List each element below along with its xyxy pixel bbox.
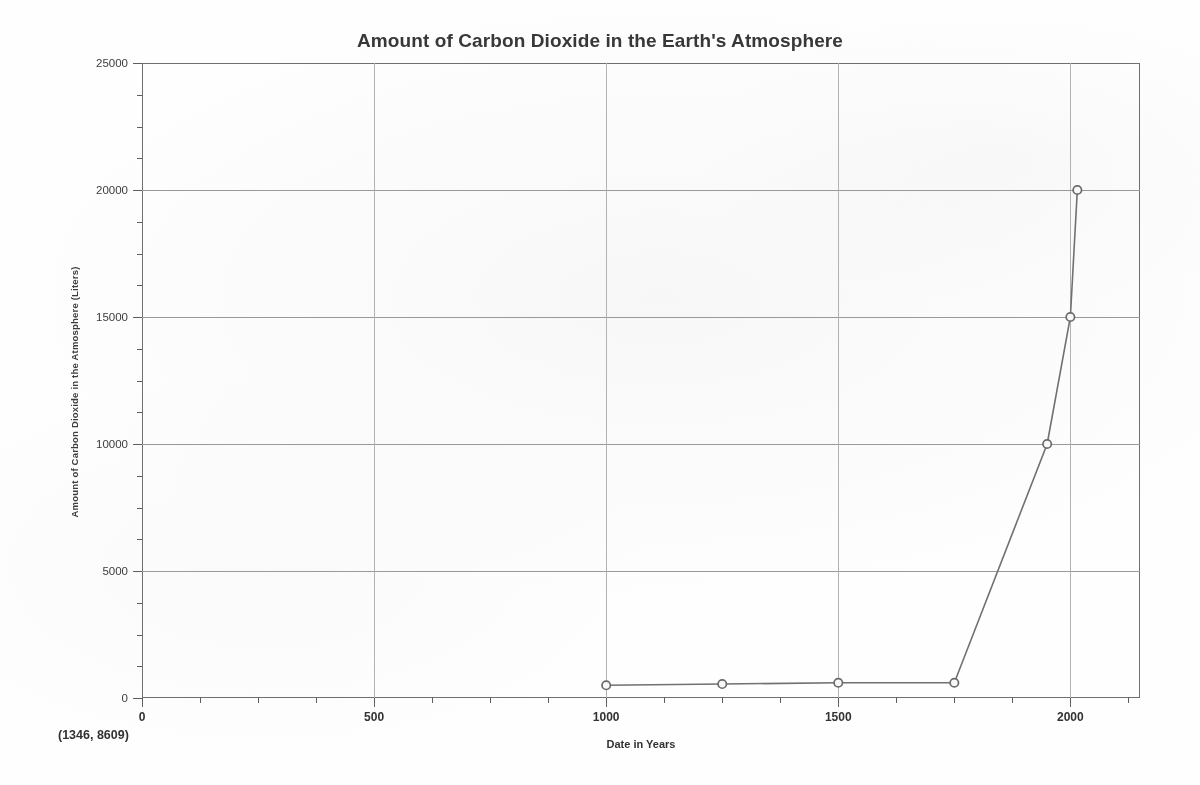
x-tick-minor (954, 698, 955, 703)
y-tick-label: 0 (0, 692, 128, 704)
x-tick-label: 500 (364, 710, 384, 724)
x-axis-title: Date in Years (607, 738, 676, 750)
x-tick-major (142, 698, 143, 707)
x-tick-minor (896, 698, 897, 703)
y-tick-major (133, 444, 142, 445)
x-tick-minor (490, 698, 491, 703)
x-tick-minor (1128, 698, 1129, 703)
y-tick-major (133, 63, 142, 64)
y-tick-major (133, 317, 142, 318)
y-tick-label: 15000 (0, 311, 128, 323)
y-tick-label: 10000 (0, 438, 128, 450)
y-tick-major (133, 571, 142, 572)
x-tick-minor (432, 698, 433, 703)
series-point-marker[interactable] (950, 679, 958, 687)
y-axis-title: Amount of Carbon Dioxide in the Atmosphe… (69, 266, 80, 517)
series-point-marker[interactable] (602, 681, 610, 689)
series-point-marker[interactable] (1043, 440, 1051, 448)
x-tick-minor (780, 698, 781, 703)
chart-figure: Amount of Carbon Dioxide in the Earth's … (0, 0, 1200, 785)
y-tick-label: 5000 (0, 565, 128, 577)
y-tick-major (133, 190, 142, 191)
series-point-marker[interactable] (834, 679, 842, 687)
series-point-marker[interactable] (718, 680, 726, 688)
x-tick-major (374, 698, 375, 707)
x-tick-label: 2000 (1057, 710, 1084, 724)
x-tick-minor (722, 698, 723, 703)
x-tick-minor (664, 698, 665, 703)
x-tick-label: 1500 (825, 710, 852, 724)
y-tick-label: 20000 (0, 184, 128, 196)
x-tick-minor (258, 698, 259, 703)
x-tick-minor (548, 698, 549, 703)
x-tick-major (838, 698, 839, 707)
data-series-layer (142, 63, 1140, 698)
series-line (606, 190, 1077, 685)
x-tick-major (1070, 698, 1071, 707)
series-point-marker[interactable] (1073, 186, 1081, 194)
x-tick-minor (316, 698, 317, 703)
x-tick-label: 0 (139, 710, 146, 724)
y-tick-major (133, 698, 142, 699)
cursor-coordinate-readout: (1346, 8609) (58, 728, 129, 742)
y-tick-label: 25000 (0, 57, 128, 69)
x-tick-minor (200, 698, 201, 703)
x-tick-major (606, 698, 607, 707)
plot-area[interactable] (142, 63, 1140, 698)
x-tick-minor (1012, 698, 1013, 703)
series-point-marker[interactable] (1066, 313, 1074, 321)
chart-title: Amount of Carbon Dioxide in the Earth's … (0, 30, 1200, 52)
x-tick-label: 1000 (593, 710, 620, 724)
